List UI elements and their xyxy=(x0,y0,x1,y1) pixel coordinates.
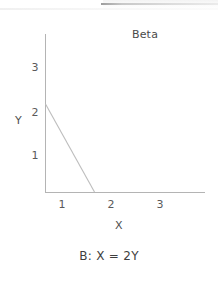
y-axis-label: Y xyxy=(15,114,22,127)
x-axis-label: X xyxy=(115,219,123,232)
line-chart: Beta 3 2 1 1 2 3 Y X B: X = 2Y xyxy=(0,0,218,281)
x-tick-label-1: 1 xyxy=(54,198,70,211)
x-tick-label-2: 2 xyxy=(103,198,119,211)
y-tick-label-1: 1 xyxy=(27,149,43,162)
plot-area xyxy=(0,0,218,281)
series-line-b xyxy=(46,104,95,192)
y-tick-label-3: 3 xyxy=(27,61,43,74)
figure-caption: B: X = 2Y xyxy=(29,249,189,263)
figure-page: Beta 3 2 1 1 2 3 Y X B: X = 2Y xyxy=(0,0,218,281)
y-tick-label-2: 2 xyxy=(27,106,43,119)
x-tick-label-3: 3 xyxy=(152,198,168,211)
